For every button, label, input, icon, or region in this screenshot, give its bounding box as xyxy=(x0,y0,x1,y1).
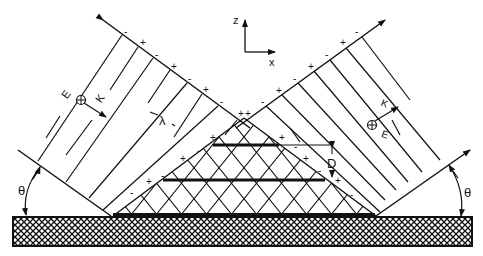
reflected-beam xyxy=(236,20,470,216)
angle-right-label: θ xyxy=(464,185,471,200)
svg-text:-: - xyxy=(197,145,200,156)
svg-text:+: + xyxy=(140,37,146,48)
svg-text:-: - xyxy=(130,187,133,198)
svg-text:+: + xyxy=(303,153,309,164)
svg-text:-: - xyxy=(355,26,358,37)
incident-beam-lower-edge xyxy=(18,150,111,216)
z-axis-label: z xyxy=(233,14,239,26)
fringe-spacing-label: D xyxy=(327,156,336,171)
svg-text:-: - xyxy=(220,96,223,107)
svg-text:+: + xyxy=(308,61,314,72)
svg-text:-: - xyxy=(155,49,158,60)
svg-text:-: - xyxy=(318,165,321,176)
svg-text:+: + xyxy=(238,108,244,119)
svg-text:+: + xyxy=(171,61,177,72)
svg-text:+: + xyxy=(279,132,285,143)
incident-wavevector-arrow xyxy=(84,103,106,117)
svg-text:+: + xyxy=(210,132,216,143)
svg-text:-: - xyxy=(350,189,353,200)
svg-text:-: - xyxy=(294,141,297,152)
svg-text:-: - xyxy=(325,49,328,60)
coordinate-axes xyxy=(245,20,275,52)
angle-left-label: θ xyxy=(18,183,25,198)
reflected-wavevector-arrow xyxy=(375,107,398,121)
substrate xyxy=(13,217,472,246)
reflected-field-label: E xyxy=(380,128,390,141)
svg-text:-: - xyxy=(188,73,191,84)
angle-right xyxy=(449,165,462,216)
svg-text:-: - xyxy=(161,170,164,181)
incident-beam xyxy=(18,16,250,216)
svg-text:-: - xyxy=(293,73,296,84)
wavelength-label: λ xyxy=(159,113,166,128)
reflected-field-symbol xyxy=(368,121,377,130)
svg-text:+: + xyxy=(203,84,209,95)
svg-text:+: + xyxy=(340,37,346,48)
svg-text:+: + xyxy=(146,176,152,187)
reflected-wavevector-label: K xyxy=(380,97,390,110)
incident-wavevector-label: K xyxy=(93,91,107,104)
x-axis-label: x xyxy=(269,56,275,68)
reflected-beam-upper-edge xyxy=(236,20,385,128)
incident-field-label: E xyxy=(59,88,73,101)
svg-text:+: + xyxy=(180,153,186,164)
svg-text:+: + xyxy=(276,85,282,96)
svg-text:-: - xyxy=(261,96,264,107)
angle-left xyxy=(25,167,40,215)
interference-diagram: D λ z x E K K E θ θ - + - + xyxy=(0,0,483,256)
svg-text:+: + xyxy=(245,108,251,119)
svg-text:-: - xyxy=(124,26,127,37)
svg-text:+: + xyxy=(335,175,341,186)
